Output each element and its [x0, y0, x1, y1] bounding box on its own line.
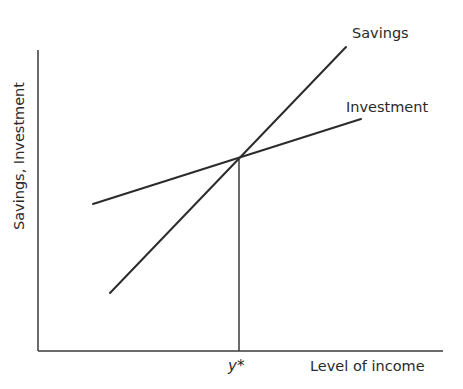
- investment-line: [93, 119, 361, 204]
- savings-line: [110, 47, 346, 293]
- x-axis-label: Level of income: [310, 358, 425, 374]
- savings-label: Savings: [352, 25, 409, 41]
- equilibrium-income-label: y*: [227, 357, 245, 375]
- y-axis-label: Savings, Investment: [11, 82, 27, 230]
- savings-investment-diagram: Savings Investment y* Level of income Sa…: [0, 0, 463, 389]
- investment-label: Investment: [346, 99, 428, 115]
